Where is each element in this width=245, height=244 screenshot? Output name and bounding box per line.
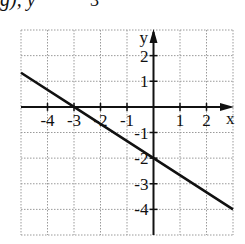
y-tick-label: 2 bbox=[140, 47, 149, 66]
y-axis-label: y bbox=[140, 28, 149, 47]
x-tick-label: -3 bbox=[67, 111, 81, 130]
coordinate-plane: -4-3-2-11221-1-2-3-4xy bbox=[0, 0, 245, 244]
x-tick-label: -1 bbox=[120, 111, 134, 130]
y-tick-label: -3 bbox=[134, 175, 148, 194]
x-tick-label: 2 bbox=[202, 111, 211, 130]
x-tick-label: 1 bbox=[176, 111, 185, 130]
y-axis-arrow-icon bbox=[150, 29, 158, 43]
y-tick-label: -4 bbox=[134, 200, 149, 219]
y-tick-label: -2 bbox=[134, 149, 148, 168]
y-tick-label: -1 bbox=[134, 124, 148, 143]
x-tick-label: -4 bbox=[40, 111, 55, 130]
x-axis-label: x bbox=[226, 109, 235, 128]
y-tick-label: 1 bbox=[140, 72, 149, 91]
